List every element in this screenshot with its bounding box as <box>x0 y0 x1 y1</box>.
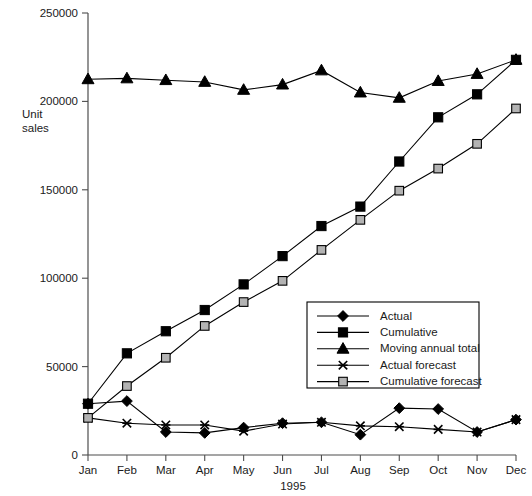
x-tick-label: Oct <box>429 464 448 476</box>
x-tick-label: Jul <box>314 464 329 476</box>
data-point-1-6 <box>317 221 326 230</box>
data-point-2-10 <box>471 68 483 79</box>
x-tick-label: Mar <box>156 464 176 476</box>
data-point-4-4 <box>239 298 248 307</box>
data-point-2-2 <box>160 74 172 85</box>
x-tick-label: Sep <box>389 464 409 476</box>
data-point-0-9 <box>433 404 444 415</box>
data-point-2-6 <box>315 64 327 75</box>
x-tick-label: Nov <box>467 464 488 476</box>
x-tick-label: Feb <box>117 464 137 476</box>
data-point-4-2 <box>162 353 171 362</box>
data-point-4-0 <box>84 414 93 423</box>
series-moving-annual-total <box>82 54 522 103</box>
legend-item-cumulative-forecast[interactable]: Cumulative forecast <box>317 375 482 387</box>
y-tick-label: 50000 <box>46 361 78 373</box>
unit-sales-line-chart: 050000100000150000200000250000 JanFebMar… <box>0 0 532 496</box>
y-tick-label: 200000 <box>40 95 78 107</box>
data-point-1-10 <box>472 90 481 99</box>
data-point-2-7 <box>354 86 366 97</box>
data-point-2-1 <box>121 72 133 83</box>
data-point-1-4 <box>239 280 248 289</box>
series-actual-forecast <box>83 414 520 437</box>
data-point-2-0 <box>82 73 94 84</box>
data-point-4-8 <box>395 186 404 195</box>
series-line <box>88 418 516 432</box>
y-axis-title-line-2: sales <box>22 122 49 134</box>
data-point-1-2 <box>161 327 170 336</box>
data-point-2-3 <box>199 76 211 87</box>
y-tick-label: 100000 <box>40 272 78 284</box>
data-point-0-1 <box>122 396 133 407</box>
legend-item-label: Actual <box>380 310 412 322</box>
legend-item-label: Cumulative <box>380 326 438 338</box>
x-tick-label: May <box>233 464 255 476</box>
y-axis-title-line-1: Unit <box>22 108 43 120</box>
series-line <box>88 401 516 435</box>
data-point-1-5 <box>278 252 287 261</box>
data-point-4-9 <box>434 164 443 173</box>
data-point-1-7 <box>356 202 365 211</box>
x-tick-label: Apr <box>196 464 214 476</box>
data-point-4-10 <box>473 140 482 149</box>
x-tick-label: Jan <box>79 464 98 476</box>
y-tick-label: 150000 <box>40 184 78 196</box>
legend-item-label: Moving annual total <box>380 342 480 354</box>
data-point-4-6 <box>317 246 326 255</box>
data-point-2-5 <box>277 78 289 89</box>
y-tick-label: 250000 <box>40 7 78 19</box>
data-point-3-9 <box>434 425 443 433</box>
data-point-0-8 <box>394 403 405 414</box>
data-point-4-5 <box>278 277 287 286</box>
data-point-4-11 <box>512 104 521 113</box>
series-actual <box>83 396 522 440</box>
data-point-1-1 <box>122 349 131 358</box>
data-point-4-3 <box>200 322 209 331</box>
x-tick-label: Aug <box>350 464 370 476</box>
x-axis-title: 1995 <box>280 480 306 492</box>
x-tick-label: Dec <box>506 464 527 476</box>
data-point-4-1 <box>123 382 132 391</box>
data-point-1-8 <box>395 157 404 166</box>
data-point-0-7 <box>355 429 366 440</box>
data-point-1-3 <box>200 305 209 314</box>
data-point-legend-4 <box>339 377 348 386</box>
chart-legend: ActualCumulativeMoving annual totalActua… <box>307 302 482 388</box>
data-point-1-9 <box>434 113 443 122</box>
legend-item-label: Actual forecast <box>380 359 457 371</box>
x-axis: JanFebMarAprMayJunJulAugSepOctNovDec <box>79 455 527 476</box>
x-tick-label: Jun <box>273 464 292 476</box>
chart-container: 050000100000150000200000250000 JanFebMar… <box>0 0 532 496</box>
data-point-legend-1 <box>338 328 347 337</box>
data-point-3-1 <box>122 419 131 427</box>
data-point-4-7 <box>356 216 365 225</box>
y-axis: 050000100000150000200000250000 <box>40 7 88 461</box>
series-line <box>88 60 516 98</box>
data-point-3-8 <box>395 423 404 431</box>
legend-item-label: Cumulative forecast <box>380 375 482 387</box>
y-tick-label: 0 <box>72 449 78 461</box>
data-point-1-0 <box>83 399 92 408</box>
